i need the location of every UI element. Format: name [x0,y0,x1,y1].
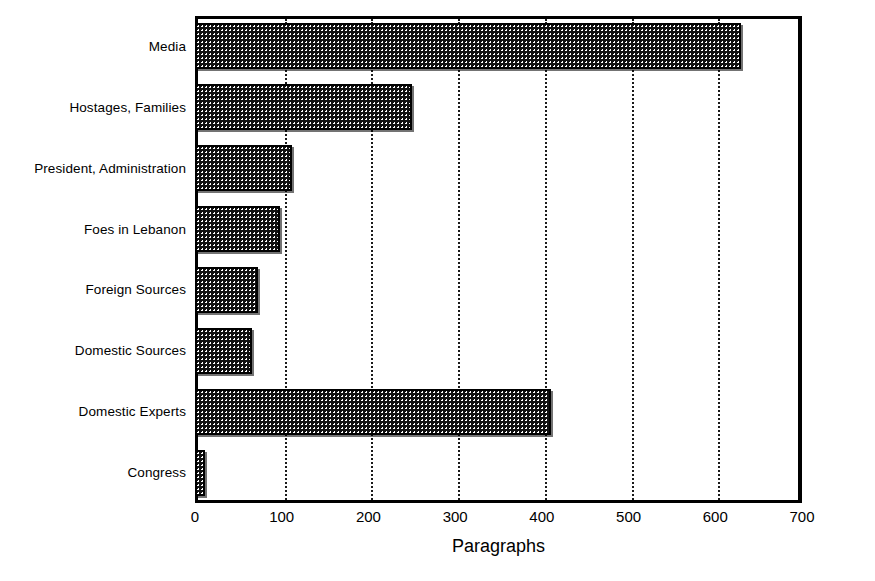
category-label: Foreign Sources [0,260,186,321]
bar [195,23,741,69]
bar-row [195,442,802,503]
x-axis-ticks: 0100200300400500600700 [195,508,802,532]
bar-row [195,381,802,442]
x-tick-label: 200 [356,508,381,525]
bar [195,450,205,496]
x-tick-label: 600 [703,508,728,525]
bar-row [195,320,802,381]
bar-chart: MediaHostages, FamiliesPresident, Admini… [0,0,875,581]
x-tick-label: 400 [529,508,554,525]
x-axis-title: Paragraphs [195,536,802,557]
category-label: Domestic Experts [0,381,186,442]
category-label: Foes in Lebanon [0,199,186,260]
bar [195,267,258,313]
bar-row [195,138,802,199]
x-tick-label: 700 [789,508,814,525]
category-label: Media [0,16,186,77]
bars-layer [195,16,802,503]
bar-row [195,77,802,138]
category-label: Congress [0,442,186,503]
bar [195,84,412,130]
bar [195,389,551,435]
category-label: President, Administration [0,138,186,199]
category-label: Domestic Sources [0,320,186,381]
bar [195,328,252,374]
x-tick-label: 0 [191,508,199,525]
bar-row [195,16,802,77]
x-tick-label: 100 [269,508,294,525]
category-label: Hostages, Families [0,77,186,138]
x-tick-label: 500 [616,508,641,525]
bar [195,145,292,191]
x-tick-label: 300 [443,508,468,525]
bar [195,206,280,252]
bar-row [195,260,802,321]
bar-row [195,199,802,260]
category-axis-labels: MediaHostages, FamiliesPresident, Admini… [0,16,186,503]
